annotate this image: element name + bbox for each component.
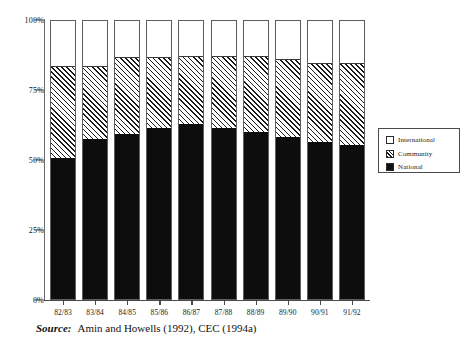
x-tick-label: 86/87 bbox=[183, 308, 201, 317]
segment-community bbox=[179, 56, 203, 126]
x-tick-label: 87/88 bbox=[215, 308, 233, 317]
segment-community bbox=[147, 57, 171, 130]
legend-item-label: National bbox=[398, 163, 423, 171]
bar-87-88 bbox=[211, 20, 237, 300]
source-caption: Source:Amin and Howells (1992), CEC (199… bbox=[36, 322, 256, 334]
legend-item-label: International bbox=[398, 136, 435, 144]
segment-national bbox=[308, 142, 332, 299]
segment-national bbox=[212, 128, 236, 299]
legend-item-label: Community bbox=[398, 150, 432, 158]
x-tick-label: 82/83 bbox=[54, 308, 72, 317]
segment-community bbox=[115, 57, 139, 135]
bar-83-84 bbox=[82, 20, 108, 300]
segment-community bbox=[51, 66, 75, 160]
hatched-square-icon bbox=[386, 150, 394, 158]
segment-community bbox=[340, 63, 364, 147]
segment-international bbox=[212, 21, 236, 56]
black-square-icon bbox=[386, 163, 394, 171]
segment-national bbox=[276, 137, 300, 299]
x-tick-label: 83/84 bbox=[86, 308, 104, 317]
x-tick-label: 90/91 bbox=[311, 308, 329, 317]
x-axis-line bbox=[44, 300, 370, 301]
x-tick-mark bbox=[352, 300, 353, 305]
segment-community bbox=[276, 59, 300, 139]
bar-85-86 bbox=[146, 20, 172, 300]
segment-community bbox=[244, 56, 268, 134]
bar-91-92 bbox=[339, 20, 365, 300]
segment-international bbox=[244, 21, 268, 56]
x-tick-mark bbox=[159, 300, 160, 305]
segment-national bbox=[83, 139, 107, 299]
bar-89-90 bbox=[275, 20, 301, 300]
white-square-icon bbox=[386, 136, 394, 144]
segment-international bbox=[83, 21, 107, 66]
segment-community bbox=[83, 66, 107, 142]
x-tick-label: 91/92 bbox=[343, 308, 361, 317]
segment-national bbox=[51, 158, 75, 299]
x-tick-mark bbox=[288, 300, 289, 305]
bar-88-89 bbox=[243, 20, 269, 300]
bar-84-85 bbox=[114, 20, 140, 300]
x-tick-label: 88/89 bbox=[247, 308, 265, 317]
segment-national bbox=[179, 124, 203, 299]
x-tick-mark bbox=[191, 300, 192, 305]
chart-page: 0%25%50%75%100% 82/8383/8484/8585/8686/8… bbox=[0, 0, 468, 343]
segment-national bbox=[115, 134, 139, 299]
segment-national bbox=[244, 132, 268, 299]
segment-international bbox=[115, 21, 139, 57]
segment-international bbox=[179, 21, 203, 56]
chart-legend: International Community National bbox=[378, 128, 460, 173]
plot-area bbox=[47, 20, 368, 300]
segment-international bbox=[51, 21, 75, 66]
segment-national bbox=[340, 145, 364, 299]
source-text: Amin and Howells (1992), CEC (1994a) bbox=[77, 322, 256, 334]
x-tick-mark bbox=[224, 300, 225, 305]
source-prefix: Source: bbox=[36, 322, 71, 334]
x-tick-mark bbox=[95, 300, 96, 305]
legend-item-community: Community bbox=[386, 148, 459, 160]
x-tick-label: 84/85 bbox=[118, 308, 136, 317]
segment-international bbox=[340, 21, 364, 63]
bar-86-87 bbox=[178, 20, 204, 300]
x-tick-mark bbox=[127, 300, 128, 305]
segment-international bbox=[147, 21, 171, 57]
x-tick-mark bbox=[63, 300, 64, 305]
x-tick-label: 85/86 bbox=[151, 308, 169, 317]
segment-international bbox=[308, 21, 332, 63]
x-tick-mark bbox=[320, 300, 321, 305]
legend-item-international: International bbox=[386, 134, 459, 146]
segment-community bbox=[212, 56, 236, 130]
x-tick-mark bbox=[256, 300, 257, 305]
x-tick-label: 89/90 bbox=[279, 308, 297, 317]
bar-82-83 bbox=[50, 20, 76, 300]
segment-international bbox=[276, 21, 300, 59]
legend-item-national: National bbox=[386, 161, 459, 173]
segment-community bbox=[308, 63, 332, 144]
bar-90-91 bbox=[307, 20, 333, 300]
segment-national bbox=[147, 128, 171, 299]
